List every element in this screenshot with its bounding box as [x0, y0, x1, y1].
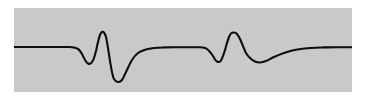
plot-panel [14, 8, 352, 92]
waveform-chart [14, 8, 352, 92]
figure-root [0, 0, 365, 100]
signal-trace-path [14, 32, 352, 82]
